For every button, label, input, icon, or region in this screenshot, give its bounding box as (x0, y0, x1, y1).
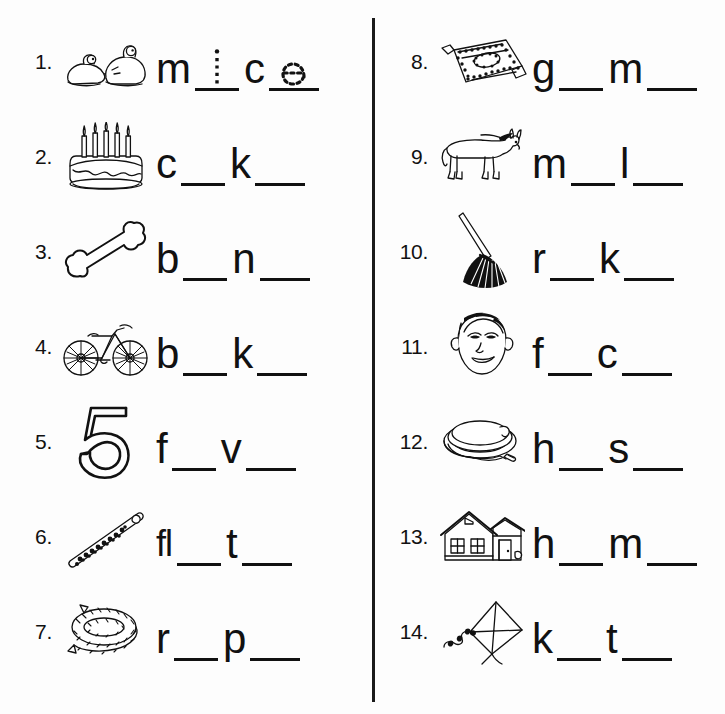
item-number: 4. (0, 335, 58, 359)
given-letter: m (608, 522, 642, 568)
bicycle-icon (58, 303, 154, 391)
given-letter: fl (156, 522, 172, 568)
mice-icon (58, 18, 154, 106)
worksheet-item: 7. rp (0, 584, 360, 679)
answer-blank[interactable] (632, 142, 684, 188)
rake-icon (434, 208, 530, 296)
item-number: 12. (376, 430, 434, 454)
hose-icon (434, 398, 530, 486)
given-letter: c (156, 142, 176, 188)
flute-icon (58, 493, 154, 581)
given-letter: v (221, 427, 241, 473)
item-number: 14. (376, 620, 434, 644)
given-letter: h (532, 522, 554, 568)
left-column: 1. m c 2. (0, 0, 360, 714)
given-letter: m (608, 47, 642, 93)
answer-blank[interactable] (182, 332, 228, 378)
answer-blank[interactable] (621, 332, 673, 378)
answer-blank[interactable] (268, 47, 320, 93)
item-number: 13. (376, 525, 434, 549)
answer-blank[interactable] (621, 617, 673, 663)
answer-blank[interactable] (570, 142, 616, 188)
answer-blank[interactable] (180, 142, 226, 188)
trace-letter-e (268, 44, 320, 86)
worksheet-item: 10. rk (376, 204, 725, 299)
answer-blank[interactable] (556, 617, 602, 663)
worksheet-item: 12. hs (376, 394, 725, 489)
answer-blank[interactable] (632, 427, 684, 473)
item-number: 3. (0, 240, 58, 264)
given-letter: f (532, 332, 543, 378)
answer-blank[interactable] (171, 427, 217, 473)
answer-blank[interactable] (547, 332, 593, 378)
worksheet-item: 9. ml (376, 109, 725, 204)
given-letter: c (597, 332, 617, 378)
word-answer-line: fc (530, 316, 725, 378)
given-letter: b (156, 332, 178, 378)
trace-letter-i (194, 44, 240, 86)
worksheet-item: 4. bk (0, 299, 360, 394)
worksheet-item: 11. fc (376, 299, 725, 394)
answer-blank[interactable] (549, 237, 595, 283)
worksheet-item: 2. ck (0, 109, 360, 204)
mule-icon (434, 113, 530, 201)
item-number: 9. (376, 145, 434, 169)
bone-icon (58, 208, 154, 296)
word-answer-line: fv (154, 411, 360, 473)
item-number: 10. (376, 240, 434, 264)
word-answer-line: bn (154, 221, 360, 283)
answer-blank[interactable] (646, 47, 698, 93)
given-letter: c (244, 47, 264, 93)
given-letter: p (223, 617, 245, 663)
cake-icon (58, 113, 154, 201)
answer-blank[interactable] (254, 142, 306, 188)
answer-blank[interactable] (249, 617, 301, 663)
given-letter: n (232, 237, 254, 283)
given-letter: r (156, 617, 169, 663)
answer-blank[interactable] (558, 522, 604, 568)
word-answer-line: ck (154, 126, 360, 188)
word-answer-line: gm (530, 31, 725, 93)
answer-blank[interactable] (259, 237, 311, 283)
answer-blank[interactable] (558, 47, 604, 93)
worksheet-item: 1. m c (0, 14, 360, 109)
item-number: 8. (376, 50, 434, 74)
right-column: 8. gm9. (376, 0, 725, 714)
worksheet-item: 5. fv (0, 394, 360, 489)
answer-blank[interactable] (558, 427, 604, 473)
given-letter: k (230, 142, 250, 188)
answer-blank[interactable] (182, 237, 228, 283)
kite-icon (434, 588, 530, 676)
given-letter: k (232, 332, 252, 378)
answer-blank[interactable] (173, 617, 219, 663)
numeral-five-icon (58, 398, 154, 486)
item-number: 5. (0, 430, 58, 454)
worksheet-page: 1. m c 2. (0, 0, 725, 714)
item-number: 2. (0, 145, 58, 169)
face-icon (434, 303, 530, 391)
worksheet-item: 3. bn (0, 204, 360, 299)
given-letter: t (226, 522, 237, 568)
word-answer-line: flt (154, 506, 360, 568)
answer-blank[interactable] (241, 522, 293, 568)
word-answer-line: ml (530, 126, 725, 188)
given-letter: k (599, 237, 619, 283)
word-answer-line: bk (154, 316, 360, 378)
item-number: 11. (376, 335, 434, 359)
answer-blank[interactable] (194, 47, 240, 93)
word-answer-line: m c (154, 31, 360, 93)
word-answer-line: rk (530, 221, 725, 283)
given-letter: m (156, 47, 190, 93)
answer-blank[interactable] (245, 427, 297, 473)
item-number: 1. (0, 50, 58, 74)
word-answer-line: hm (530, 506, 725, 568)
given-letter: l (620, 142, 628, 188)
answer-blank[interactable] (176, 522, 222, 568)
word-answer-line: hs (530, 411, 725, 473)
answer-blank[interactable] (256, 332, 308, 378)
rope-icon (58, 588, 154, 676)
column-divider (372, 18, 375, 702)
answer-blank[interactable] (623, 237, 675, 283)
answer-blank[interactable] (646, 522, 698, 568)
house-icon (434, 493, 530, 581)
